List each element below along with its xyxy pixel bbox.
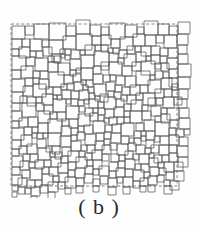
packed-square	[37, 133, 43, 139]
packed-square	[116, 168, 125, 177]
packed-square	[43, 133, 48, 138]
packed-square	[78, 126, 84, 132]
packed-square	[178, 99, 187, 108]
packed-square	[46, 146, 52, 152]
packed-square	[80, 50, 85, 55]
packed-square	[104, 139, 110, 145]
packed-square	[159, 145, 169, 155]
packed-square	[61, 54, 65, 58]
packed-square	[136, 93, 143, 100]
packed-square	[85, 153, 92, 160]
packed-square	[12, 103, 20, 111]
packed-square	[142, 105, 148, 111]
packed-square	[81, 80, 86, 85]
packed-square	[156, 98, 163, 105]
packed-square	[144, 21, 158, 35]
packed-square	[12, 26, 25, 39]
packed-square	[96, 133, 104, 141]
packed-square	[25, 26, 34, 35]
packed-square	[108, 91, 114, 97]
packed-square	[98, 102, 104, 108]
packed-square	[162, 155, 169, 162]
packed-square	[23, 86, 33, 96]
packed-square	[93, 160, 102, 169]
packed-square	[33, 71, 40, 78]
packed-square	[148, 176, 157, 185]
packed-square	[116, 76, 125, 85]
packed-square	[66, 106, 79, 119]
packed-square	[95, 96, 100, 101]
packed-square	[53, 87, 61, 95]
packed-square	[169, 135, 179, 145]
packed-square	[32, 133, 37, 138]
packed-square	[156, 35, 164, 43]
packed-square	[114, 107, 124, 117]
packed-square	[134, 131, 141, 138]
packed-square	[81, 68, 93, 80]
packed-square	[66, 26, 76, 36]
packed-square	[98, 115, 104, 121]
packed-square	[22, 103, 36, 117]
packed-square	[28, 117, 38, 127]
packed-square	[164, 35, 177, 48]
packed-square	[133, 181, 140, 188]
packed-square	[142, 111, 151, 120]
packed-square	[85, 108, 93, 116]
packed-square	[139, 154, 149, 164]
packed-square	[12, 92, 23, 103]
packed-square	[62, 147, 71, 156]
packed-square	[62, 119, 69, 126]
packed-square	[125, 169, 133, 177]
packed-square	[25, 78, 33, 86]
packed-square	[164, 180, 170, 186]
packed-square	[151, 46, 160, 55]
packed-square	[60, 136, 71, 147]
packed-square	[30, 51, 36, 57]
packed-square	[115, 85, 122, 92]
packed-square	[136, 145, 145, 154]
packed-square	[155, 116, 161, 122]
packed-square	[155, 122, 169, 136]
packed-square	[92, 36, 101, 45]
packed-square	[117, 177, 123, 183]
packed-square	[166, 172, 174, 180]
packed-square	[164, 162, 174, 172]
packed-square	[61, 126, 71, 136]
packed-square	[12, 149, 19, 156]
packed-square	[118, 58, 124, 64]
packed-square	[79, 106, 85, 112]
packed-square	[179, 108, 189, 118]
packed-square	[76, 20, 90, 34]
packed-square	[59, 173, 68, 182]
packed-square	[21, 66, 33, 78]
packed-square	[27, 97, 36, 106]
packed-square	[93, 179, 100, 186]
packed-square	[111, 133, 121, 143]
packed-square	[160, 48, 168, 56]
packed-square	[130, 85, 140, 95]
packed-square	[92, 150, 102, 160]
packed-square	[35, 58, 48, 71]
packed-square	[102, 154, 109, 161]
packed-square	[170, 181, 179, 190]
packed-square	[109, 23, 125, 39]
packed-square	[121, 123, 134, 136]
packed-square	[149, 158, 158, 167]
packed-square	[95, 45, 101, 51]
packed-square	[12, 140, 21, 149]
packed-square	[30, 168, 42, 180]
packed-square	[76, 68, 81, 73]
packed-square	[109, 171, 116, 178]
packed-square	[76, 178, 84, 186]
packed-square	[179, 137, 188, 146]
packed-square	[57, 112, 66, 121]
packed-square	[178, 54, 188, 64]
packed-square	[12, 121, 19, 128]
packed-square	[32, 127, 38, 133]
packed-square	[36, 51, 43, 58]
packed-square	[66, 99, 71, 104]
packed-square	[133, 34, 145, 46]
packed-square	[49, 23, 66, 40]
packed-square	[85, 134, 96, 145]
packed-square	[144, 120, 155, 131]
